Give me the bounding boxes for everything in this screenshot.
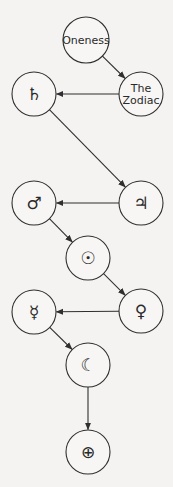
venus-symbol-icon: ♀ bbox=[135, 301, 147, 321]
edge-saturn-to-jupiter bbox=[49, 110, 125, 187]
mars-symbol-icon: ♂ bbox=[26, 193, 41, 213]
earth-symbol-icon: ⊕ bbox=[81, 442, 95, 462]
node-jupiter: ♃ bbox=[119, 181, 163, 225]
edge-oneness-to-zodiac bbox=[102, 55, 125, 78]
planetary-descent-diagram: OnenessTheZodiac♄♃♂☉♀☿☾⊕ bbox=[0, 0, 173, 487]
edge-sun-to-venus bbox=[104, 274, 126, 296]
node-label: Zodiac bbox=[122, 94, 159, 107]
saturn-symbol-icon: ♄ bbox=[26, 84, 41, 104]
node-zodiac: TheZodiac bbox=[119, 72, 163, 116]
node-sun: ☉ bbox=[66, 236, 110, 280]
edge-mars-to-sun bbox=[49, 219, 72, 242]
node-moon: ☾ bbox=[66, 343, 110, 387]
node-mars: ♂ bbox=[12, 181, 56, 225]
jupiter-symbol-icon: ♃ bbox=[133, 193, 148, 213]
node-earth: ⊕ bbox=[66, 430, 110, 474]
node-saturn: ♄ bbox=[12, 72, 56, 116]
moon-symbol-icon: ☾ bbox=[80, 355, 95, 375]
mercury-symbol-icon: ☿ bbox=[29, 302, 39, 322]
node-mercury: ☿ bbox=[12, 290, 56, 334]
node-label: Oneness bbox=[62, 34, 110, 47]
edge-venus-to-mercury bbox=[56, 311, 119, 312]
node-venus: ♀ bbox=[119, 289, 163, 333]
edge-mercury-to-moon bbox=[50, 327, 72, 349]
sun-symbol-icon: ☉ bbox=[80, 248, 95, 268]
node-oneness: Oneness bbox=[62, 17, 110, 63]
